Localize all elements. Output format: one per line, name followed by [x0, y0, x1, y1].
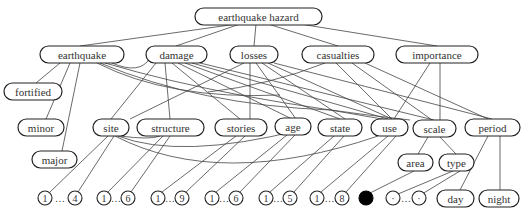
value-label: 1: [315, 193, 320, 204]
node-damage: damage: [146, 46, 207, 63]
value-label: ·: [417, 193, 420, 204]
node-earthquake: earthquake: [40, 46, 124, 63]
edge: [36, 63, 60, 83]
edge: [268, 24, 338, 46]
node-importance: importance: [396, 46, 478, 63]
edge: [394, 63, 430, 119]
node-label: earthquake hazard: [218, 11, 299, 23]
node-age: age: [275, 118, 311, 135]
ellipsis: …: [55, 193, 65, 204]
edge: [165, 63, 170, 119]
edge: [240, 135, 295, 192]
node-label: importance: [412, 49, 462, 61]
node-use: use: [371, 119, 408, 136]
ellipsis: …: [219, 193, 229, 204]
edge: [176, 24, 240, 46]
edge: [268, 63, 392, 119]
node-scale: scale: [413, 120, 456, 137]
node-structure: structure: [137, 119, 204, 136]
node-area: area: [398, 154, 433, 171]
edge: [254, 24, 256, 46]
node-label: type: [447, 157, 466, 169]
node-label: fortified: [15, 86, 52, 98]
value-group-state-vals: 15…: [259, 191, 297, 205]
value-label: 1: [210, 193, 215, 204]
node-label: losses: [241, 49, 267, 61]
edge: [78, 136, 114, 192]
node-stories: stories: [215, 119, 267, 136]
value-group-stories-vals: 19…: [151, 191, 189, 205]
ellipsis: …: [325, 193, 335, 204]
value-label: 8: [340, 193, 345, 204]
value-label: 1: [264, 193, 269, 204]
value-group-age-vals: 16…: [205, 191, 243, 205]
node-label: stories: [227, 122, 256, 134]
earthquake-hazard-diagram: earthquake hazardearthquakedamagelossesc…: [0, 0, 526, 215]
node-label: age: [285, 121, 300, 133]
value-label: 1: [43, 193, 48, 204]
value-group-type-vals: ··…: [386, 191, 426, 205]
node-label: structure: [151, 122, 190, 134]
ellipsis: …: [273, 193, 283, 204]
edge: [162, 136, 236, 192]
edge: [108, 136, 163, 192]
value-label: 4: [73, 193, 78, 204]
edge: [185, 63, 340, 119]
value-label: 6: [126, 193, 131, 204]
edge: [300, 24, 437, 46]
node-label: night: [488, 193, 511, 205]
edge: [172, 63, 240, 119]
value-label: ·: [391, 193, 394, 204]
edge: [130, 63, 244, 119]
edge: [321, 136, 388, 192]
node-losses: losses: [230, 46, 278, 63]
node-minor: minor: [18, 119, 64, 136]
node-period: period: [465, 119, 520, 136]
value-group-site-vals: 14…: [38, 191, 82, 205]
node-label: scale: [424, 123, 446, 135]
value-label: 5: [288, 193, 293, 204]
edge: [418, 137, 428, 154]
node-fortified: fortified: [4, 83, 62, 100]
node-label: casualties: [317, 49, 360, 61]
node-label: state: [330, 122, 350, 134]
node-major: major: [32, 151, 77, 168]
node-type: type: [439, 154, 474, 171]
ellipsis: …: [111, 193, 121, 204]
value-group-structure-vals: 16…: [97, 191, 135, 205]
node-label: minor: [28, 122, 55, 134]
diagram-nodes: earthquake hazardearthquakedamagelossesc…: [4, 8, 520, 207]
node-label: day: [448, 193, 464, 205]
node-label: major: [42, 154, 68, 166]
edge: [186, 136, 245, 192]
ellipsis: …: [401, 193, 411, 204]
node-label: use: [382, 122, 397, 134]
ellipsis: …: [165, 193, 175, 204]
node-site: site: [93, 119, 129, 136]
node-earthquake-hazard: earthquake hazard: [195, 8, 322, 25]
value-label: 9: [180, 193, 185, 204]
node-label: area: [406, 157, 424, 169]
node-night: night: [479, 190, 519, 207]
value-group-use-vals: 18…: [310, 191, 349, 205]
node-casualties: casualties: [302, 46, 374, 63]
node-label: earthquake: [58, 49, 106, 61]
diagram-value-circles: 14…16…19…16…15…18…··…: [38, 191, 426, 205]
filled-value-circle: [359, 191, 373, 205]
value-label: 1: [102, 193, 107, 204]
node-label: damage: [159, 49, 193, 61]
edge: [440, 137, 456, 154]
node-label: period: [478, 122, 507, 134]
value-label: 6: [234, 193, 239, 204]
edge: [80, 24, 237, 46]
node-state: state: [318, 119, 362, 136]
node-label: site: [103, 122, 118, 134]
node-day: day: [437, 190, 474, 207]
value-label: 1: [156, 193, 161, 204]
